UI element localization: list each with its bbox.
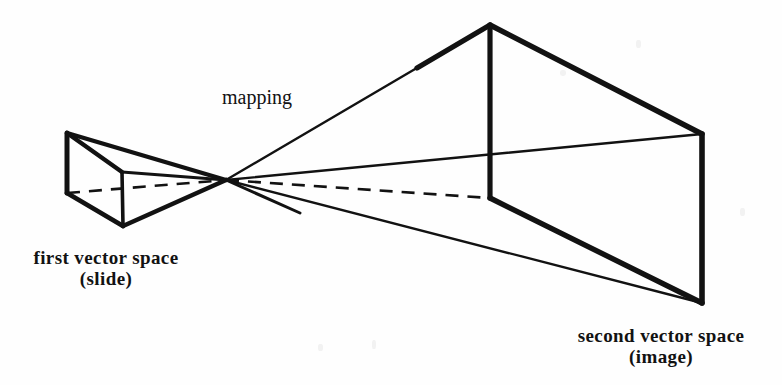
slide-box-front-vertical-edge [122,172,123,226]
figure-canvas: mapping first vector space (slide) secon… [0,0,782,385]
first-vector-space-line2: (slide) [8,268,204,289]
second-vector-space-label: second vector space (image) [552,325,770,368]
second-vector-space-line1: second vector space [578,325,745,346]
image-box-top-left-edge [417,25,490,68]
second-vector-space-line2: (image) [552,346,770,367]
image-box-bottom-edge [490,198,702,303]
image-box-top-right-edge [490,25,702,134]
slide-box-bottom-left-edge [67,193,123,226]
ray-to-image-bottom-right [226,180,702,303]
first-vector-space-label: first vector space (slide) [8,247,204,290]
ray-to-image-top-right [226,134,702,180]
first-vector-space-line1: first vector space [33,247,178,268]
mapping-label: mapping [222,86,340,108]
mapping-label-text: mapping [222,86,292,108]
